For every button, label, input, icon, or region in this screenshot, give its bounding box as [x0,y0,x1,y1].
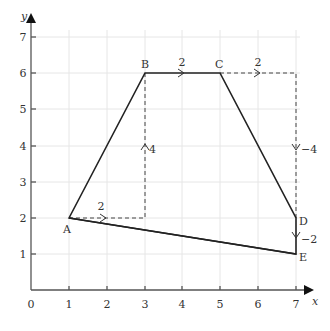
x-tick-label: 5 [217,298,224,311]
vector-label: −4 [301,143,317,156]
y-tick-label: 7 [20,31,27,44]
vector-label: −2 [301,233,317,246]
y-tick-label: 3 [20,176,27,189]
x-tick-label: 2 [104,298,111,311]
origin-label: 0 [28,298,35,311]
x-tick-label: 1 [66,298,73,311]
x-axis-arrow-icon [304,285,314,295]
y-tick-label: 6 [20,67,27,80]
y-tick-label: 2 [20,212,27,225]
y-tick-label: 1 [20,248,27,261]
point-label-e: E [299,251,307,264]
coordinate-diagram: 0 1 2 3 4 5 6 7 x 1 2 3 4 5 6 7 y 2 4 [0,0,330,331]
point-label-a: A [62,223,72,236]
y-tick-label: 5 [20,103,27,116]
y-axis-arrow-icon [26,13,36,23]
x-axis-label: x [312,295,319,308]
vector-label: 2 [255,56,262,69]
point-label-d: D [299,215,308,228]
point-label-c: C [215,58,223,71]
y-tick-label: 4 [20,140,27,153]
vector-label: 2 [179,56,186,69]
point-label-b: B [141,58,149,71]
x-tick-label: 3 [142,298,149,311]
x-tick-label: 6 [255,298,262,311]
x-tick-label: 4 [179,298,186,311]
x-tick-label: 7 [293,298,300,311]
vector-label: 2 [98,200,105,213]
y-axis-label: y [20,10,28,23]
grid [31,30,300,290]
vector-label: 4 [149,143,156,156]
